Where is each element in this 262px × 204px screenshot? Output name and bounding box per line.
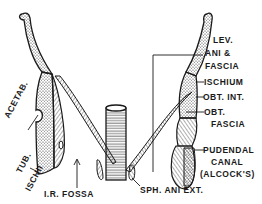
label-pudendal-2: CANAL: [211, 157, 243, 167]
label-obt-fascia-1: OBT.: [204, 107, 225, 117]
left-ischium: [20, 13, 65, 174]
label-sph-ani-ext: SPH. ANI EXT.: [140, 185, 203, 195]
label-pudendal-1: PUDENDAL: [203, 145, 254, 155]
label-lev-ani-3: FASCIA: [205, 61, 239, 71]
label-obt-int: OBT. INT.: [203, 92, 244, 102]
ischiorectal-fossa-diagram: LEV. ANI & FASCIA ISCHIUM OBT. INT. OBT.…: [0, 0, 262, 204]
anal-canal: [106, 105, 126, 180]
right-sphincter-ani-ext: [129, 165, 135, 180]
left-sphincter-ani-ext: [97, 160, 103, 180]
label-lev-ani-2: ANI &: [205, 48, 231, 58]
label-ir-fossa: I.R. FOSSA: [44, 189, 94, 199]
label-ischium: ISCHIUM: [204, 77, 243, 87]
label-pudendal-3: (ALCOCK'S): [200, 169, 255, 179]
label-lev-ani-1: LEV.: [213, 35, 233, 45]
label-obt-fascia-2: FASCIA: [211, 119, 245, 129]
